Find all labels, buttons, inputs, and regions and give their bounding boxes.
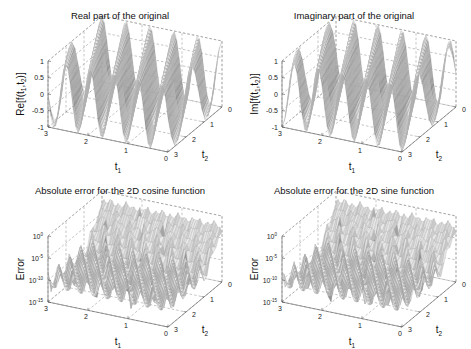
z-tick — [48, 78, 51, 79]
subplot-1: 01230123-1-0.500.51Real part of the orig… — [15, 10, 232, 174]
t2-tick — [454, 107, 457, 108]
z-tick — [282, 111, 285, 112]
z-tick — [282, 236, 285, 237]
t2-axis-label: t2 — [202, 324, 209, 337]
t2-tick-label: 2 — [192, 136, 196, 143]
z-tick — [48, 302, 51, 303]
t2-tick — [436, 297, 439, 298]
subplot-title: Real part of the original — [71, 10, 169, 21]
z-tick-label: 0.5 — [34, 74, 44, 81]
t2-tick — [184, 137, 187, 138]
z-tick-label: 100 — [267, 232, 278, 240]
t1-tick-label: 0 — [164, 330, 168, 337]
t1-tick-label: 1 — [124, 147, 128, 154]
figure: 01230123-1-0.500.51Real part of the orig… — [0, 0, 471, 349]
t2-tick-label: 1 — [210, 121, 214, 128]
z-tick-label: -1 — [272, 124, 278, 131]
z-tick — [282, 78, 285, 79]
t1-tick-label: 3 — [278, 305, 282, 312]
t2-tick — [202, 297, 205, 298]
t1-tick-label: 0 — [398, 330, 402, 337]
z-tick-label: -1 — [38, 124, 44, 131]
z-tick-label: 10-15 — [263, 298, 278, 306]
t2-tick-label: 2 — [426, 311, 430, 318]
z-tick-label: 0.5 — [268, 74, 278, 81]
t1-tick-label: 1 — [358, 147, 362, 154]
z-tick-label: 1 — [274, 58, 278, 65]
t2-tick-label: 0 — [228, 281, 232, 288]
t1-tick-label: 3 — [44, 130, 48, 137]
z-tick — [48, 61, 51, 62]
t2-tick-label: 2 — [426, 136, 430, 143]
z-tick — [282, 258, 285, 259]
z-tick-label: 0 — [274, 91, 278, 98]
t2-axis-label: t2 — [436, 324, 443, 337]
surface — [48, 200, 222, 311]
t2-tick — [166, 327, 169, 328]
t1-axis-label: t1 — [349, 161, 356, 174]
z-tick-label: 10-5 — [31, 254, 43, 262]
t1-axis-label: t1 — [115, 336, 122, 349]
t2-tick — [184, 312, 187, 313]
t1-tick-label: 0 — [398, 155, 402, 162]
z-tick — [48, 280, 51, 281]
t2-tick-label: 3 — [408, 151, 412, 158]
t2-tick-label: 1 — [210, 296, 214, 303]
z-tick-label: 10-5 — [265, 254, 277, 262]
t2-tick — [418, 312, 421, 313]
t1-axis-label: t1 — [115, 161, 122, 174]
subplot-3: 0123012310-1510-1010-5100Absolute error … — [15, 185, 232, 349]
t2-tick-label: 3 — [174, 326, 178, 333]
t2-tick-label: 1 — [444, 121, 448, 128]
t2-tick — [400, 152, 403, 153]
t1-axis-label: t1 — [349, 336, 356, 349]
t1-tick-label: 2 — [84, 313, 88, 320]
z-axis-label: Im[f(t1,t2)] — [249, 73, 261, 115]
subplot-title: Absolute error for the 2D cosine functio… — [35, 185, 205, 196]
t1-axis — [282, 127, 402, 152]
z-tick-label: -0.5 — [32, 107, 44, 114]
t2-tick — [220, 282, 223, 283]
z-tick-label: 100 — [33, 232, 44, 240]
t1-tick-label: 3 — [278, 130, 282, 137]
t1-tick-label: 2 — [318, 138, 322, 145]
t1-tick-label: 1 — [358, 322, 362, 329]
t1-tick-label: 3 — [44, 305, 48, 312]
t2-tick — [400, 327, 403, 328]
z-tick — [282, 302, 285, 303]
surface-patch — [48, 94, 54, 124]
t2-tick-label: 2 — [192, 311, 196, 318]
t2-tick — [166, 152, 169, 153]
t1-tick-label: 2 — [318, 313, 322, 320]
t1-tick-label: 1 — [124, 322, 128, 329]
t2-tick — [220, 107, 223, 108]
t2-axis-label: t2 — [436, 149, 443, 162]
t2-tick — [202, 122, 205, 123]
z-tick — [48, 127, 51, 128]
z-tick — [48, 258, 51, 259]
subplot-title: Absolute error for the 2D sine function — [274, 185, 434, 196]
z-tick — [48, 236, 51, 237]
z-axis-label: Re[f(t1,t2)] — [15, 72, 27, 116]
t1-tick-label: 0 — [164, 155, 168, 162]
z-tick — [282, 61, 285, 62]
z-tick-label: 10-15 — [29, 298, 44, 306]
t2-tick-label: 0 — [462, 106, 466, 113]
z-tick — [282, 127, 285, 128]
z-tick-label: 0 — [40, 91, 44, 98]
z-tick-label: 1 — [40, 58, 44, 65]
t1-tick-label: 2 — [84, 138, 88, 145]
z-tick-label: -0.5 — [266, 107, 278, 114]
z-tick-label: 10-10 — [29, 276, 44, 284]
t2-tick-label: 0 — [228, 106, 232, 113]
t2-axis-label: t2 — [202, 149, 209, 162]
z-tick — [282, 94, 285, 95]
z-tick — [48, 94, 51, 95]
t2-tick-label: 1 — [444, 296, 448, 303]
surface — [282, 200, 456, 311]
t2-tick — [418, 137, 421, 138]
t2-tick-label: 3 — [174, 151, 178, 158]
z-tick-label: 10-10 — [263, 276, 278, 284]
t2-tick-label: 3 — [408, 326, 412, 333]
subplot-title: Imaginary part of the original — [294, 10, 414, 21]
